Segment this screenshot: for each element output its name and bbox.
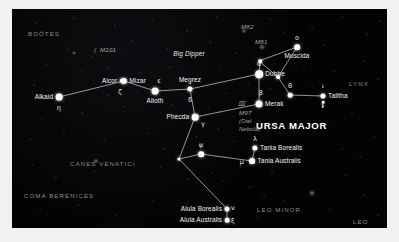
star-chart-frame: AlkaidηAlcorMizarζAliothεMegrezδPhecdaγD… — [0, 0, 399, 242]
star-alula-australis[interactable] — [225, 218, 230, 223]
star-dubhe[interactable] — [255, 70, 263, 78]
star-label: Alula Australis — [180, 217, 222, 224]
background-star — [78, 205, 79, 206]
star-muscida[interactable] — [294, 44, 300, 50]
star-tania-australis[interactable] — [249, 158, 255, 164]
background-star — [346, 175, 347, 176]
constellation-label-leo: LEO — [353, 219, 369, 225]
star-unnamed-15[interactable] — [288, 93, 293, 98]
star-greek-letter-kappa: κ — [321, 102, 324, 108]
star-merak[interactable] — [256, 101, 263, 108]
background-star — [300, 155, 301, 156]
background-star — [108, 67, 109, 68]
deep-sky-label: (Owl — [239, 118, 252, 125]
owl-nebula-marker-icon: ⌧ — [238, 101, 245, 107]
constellation-line — [290, 95, 323, 96]
background-star — [82, 71, 83, 72]
background-star — [234, 141, 235, 142]
star-label: Muscida — [285, 53, 310, 60]
background-star — [364, 61, 365, 62]
background-star — [218, 129, 219, 130]
background-star — [196, 137, 197, 138]
star-greek-letter: α — [257, 61, 262, 68]
star-label: Mizar — [130, 78, 146, 85]
background-star — [280, 133, 281, 134]
background-star — [312, 27, 313, 28]
leo-glow — [309, 190, 316, 197]
star-label: Talitha — [328, 93, 348, 100]
star-greek-letter: θ — [288, 83, 292, 90]
background-star — [152, 21, 153, 22]
star-greek-letter: ι — [322, 83, 324, 90]
background-star — [160, 167, 161, 168]
asterism-label-big-dipper: Big Dipper — [173, 51, 204, 58]
background-star — [334, 71, 335, 72]
background-star — [212, 173, 213, 174]
background-star — [167, 49, 168, 50]
background-star — [42, 119, 43, 120]
star-alula-borealis[interactable] — [225, 207, 230, 212]
star-greek-letter: λ — [253, 136, 257, 143]
background-star — [220, 69, 221, 70]
deep-sky-label: Nebula) — [239, 126, 260, 133]
star-greek-letter: β — [259, 90, 263, 97]
star-label: Alkaid — [35, 94, 53, 101]
background-star — [284, 33, 285, 34]
constellation-line — [179, 159, 227, 209]
m101-marker-icon: ( — [94, 47, 96, 53]
background-star — [56, 177, 57, 178]
background-star — [364, 195, 365, 196]
constellation-line — [201, 154, 252, 161]
background-star — [104, 141, 105, 142]
background-star — [374, 137, 375, 138]
background-star — [270, 19, 271, 20]
star-greek-letter: δ — [188, 97, 192, 104]
background-star — [82, 113, 83, 114]
star-unnamed-14[interactable] — [198, 151, 204, 157]
deep-sky-label: M101 — [100, 47, 116, 54]
star-greek-letter: γ — [201, 121, 205, 128]
background-star — [367, 34, 368, 35]
background-star — [152, 201, 153, 202]
background-star — [250, 187, 251, 188]
background-star — [208, 195, 209, 196]
background-star — [210, 42, 211, 43]
star-alkaid[interactable] — [56, 94, 63, 101]
star-greek-letter: ζ — [118, 89, 122, 96]
m101-galaxy — [72, 51, 77, 55]
star-phecda[interactable] — [192, 114, 199, 121]
constellation-label-coma-berenices: COMA BERENICES — [24, 193, 94, 199]
star-label: Phecda — [167, 114, 190, 121]
background-star — [380, 21, 381, 22]
background-star — [272, 171, 273, 172]
background-star — [92, 57, 93, 58]
background-star — [130, 179, 131, 180]
sky-field: AlkaidηAlcorMizarζAliothεMegrezδPhecdaγD… — [12, 9, 387, 228]
background-star — [187, 31, 188, 32]
star-greek-letter: ε — [157, 78, 161, 85]
background-star — [352, 113, 353, 114]
star-greek-letter: ψ — [199, 142, 204, 149]
background-star — [330, 209, 331, 210]
star-greek-letter: ο — [295, 35, 299, 42]
background-star — [40, 209, 41, 210]
background-star — [115, 25, 116, 26]
background-star — [360, 157, 361, 158]
background-star — [94, 171, 95, 172]
background-star — [132, 41, 133, 42]
background-star — [108, 95, 109, 96]
background-star — [208, 109, 209, 110]
background-star — [32, 165, 33, 166]
constellation-label-canes-venatici: CANES VENATICI — [70, 161, 136, 167]
background-star — [378, 79, 379, 80]
background-star — [46, 65, 47, 66]
star-label: Tania Borealis — [260, 145, 302, 152]
background-star — [124, 107, 125, 108]
background-star — [68, 49, 69, 50]
star-alioth[interactable] — [152, 88, 159, 95]
constellation-line — [179, 117, 195, 159]
constellation-label-lynx: LYNX — [349, 81, 369, 87]
star-greek-letter: η — [57, 105, 61, 112]
background-star — [74, 18, 75, 19]
background-star — [222, 181, 223, 182]
